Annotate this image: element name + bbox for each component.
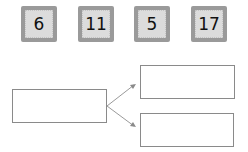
arrow-head-up-icon — [130, 84, 136, 89]
arrow-down-line — [107, 106, 134, 126]
arrow-head-down-icon — [130, 122, 136, 127]
branch-arrows — [0, 0, 248, 152]
arrow-up-line — [107, 85, 134, 106]
